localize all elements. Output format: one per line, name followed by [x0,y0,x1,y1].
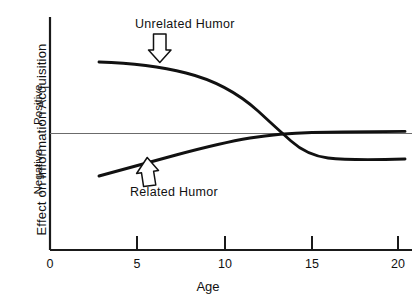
x-tick-label-0: 0 [30,258,70,271]
series-label-unrelated-humor: Unrelated Humor [135,18,235,31]
x-tick-label-15: 15 [292,258,332,271]
curve-unrelated-humor [99,62,405,160]
y-axis-label-negative: Negative [33,129,45,215]
series-label-related-humor: Related Humor [130,186,218,199]
down-arrow-icon [149,34,172,63]
x-tick-label-10: 10 [205,258,245,271]
x-tick-label-5: 5 [117,258,157,271]
x-axis-ticks [50,236,398,250]
x-tick-label-20: 20 [378,258,416,271]
chart-figure: Effect on Information Acquisition Positi… [0,0,416,306]
x-axis-label: Age [0,280,416,293]
